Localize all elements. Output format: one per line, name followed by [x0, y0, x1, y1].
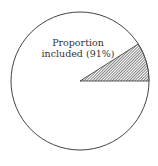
slice-label-line1: Proportion: [40, 37, 116, 48]
pie-chart: [0, 0, 158, 166]
slice-label: Proportion included (91%): [40, 37, 116, 59]
slice-label-line2: included (91%): [40, 48, 116, 59]
